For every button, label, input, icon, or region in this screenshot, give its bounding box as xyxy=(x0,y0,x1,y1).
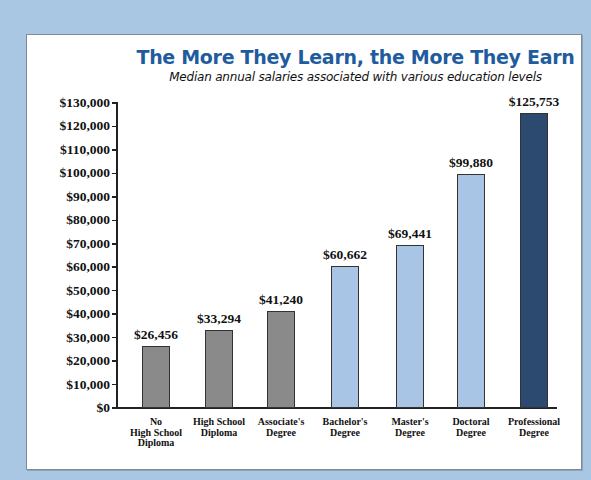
y-tick-label: $80,000 xyxy=(66,212,110,228)
y-tick xyxy=(112,173,117,175)
y-tick-label: $90,000 xyxy=(66,189,110,205)
bar-value-label: $99,880 xyxy=(431,155,511,171)
y-tick-label: $100,000 xyxy=(59,165,110,181)
y-tick xyxy=(112,243,117,245)
y-tick xyxy=(112,102,117,104)
y-tick-label: $20,000 xyxy=(66,353,110,369)
y-tick-label: $10,000 xyxy=(66,377,110,393)
y-tick xyxy=(112,266,117,268)
y-tick xyxy=(112,313,117,315)
bar-value-label: $60,662 xyxy=(305,247,385,263)
bar-value-label: $41,240 xyxy=(241,292,321,308)
y-tick xyxy=(112,196,117,198)
bar-value-label: $26,456 xyxy=(116,327,196,343)
y-tick-label: $110,000 xyxy=(60,142,110,158)
bar xyxy=(396,245,424,408)
bar xyxy=(205,330,233,408)
y-tick-label: $30,000 xyxy=(66,330,110,346)
bar-value-label: $125,753 xyxy=(494,94,574,110)
y-tick-label: $120,000 xyxy=(59,118,110,134)
y-tick-label: $40,000 xyxy=(66,306,110,322)
chart-title: The More They Learn, the More They Earn xyxy=(0,46,591,68)
bar xyxy=(267,311,295,408)
bar-value-label: $33,294 xyxy=(179,311,259,327)
y-tick xyxy=(112,360,117,362)
y-tick xyxy=(112,290,117,292)
bar xyxy=(142,346,170,408)
y-tick-label: $50,000 xyxy=(66,283,110,299)
bar xyxy=(520,113,548,408)
chart-subtitle: Median annual salaries associated with v… xyxy=(0,70,591,84)
y-tick xyxy=(112,126,117,128)
bar xyxy=(331,266,359,408)
y-tick-label: $0 xyxy=(97,400,111,416)
bar-value-label: $69,441 xyxy=(370,226,450,242)
bar xyxy=(457,174,485,408)
y-tick-label: $70,000 xyxy=(66,236,110,252)
y-tick xyxy=(112,407,117,409)
y-tick xyxy=(112,220,117,222)
y-tick xyxy=(112,384,117,386)
y-axis-line xyxy=(116,102,118,409)
y-tick-label: $130,000 xyxy=(59,95,110,111)
y-tick-label: $60,000 xyxy=(66,259,110,275)
x-category-label: Professional Degree xyxy=(494,417,574,438)
y-tick xyxy=(112,149,117,151)
